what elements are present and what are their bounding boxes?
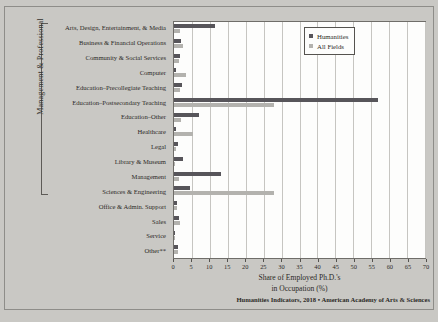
x-axis-title: Share of Employed Ph.D.'s in Occupation … [173, 273, 426, 294]
bar-row [174, 184, 425, 199]
bar-humanities [174, 98, 378, 102]
bar-row [174, 37, 425, 52]
category-label: Library & Museum [37, 155, 169, 170]
bar-humanities [174, 127, 176, 131]
source-note: Humanities Indicators, 2018 • American A… [65, 296, 430, 303]
category-label: Computer [37, 66, 169, 81]
x-axis-tick [336, 259, 337, 262]
x-axis-tick-label: 40 [314, 263, 320, 270]
bar-all-fields [174, 59, 179, 63]
bar-row [174, 52, 425, 67]
x-axis-tick-label: 0 [171, 263, 174, 270]
x-axis-tick [173, 259, 174, 262]
bar-humanities [174, 216, 179, 220]
bar-all-fields [174, 250, 178, 254]
x-axis-tick-label: 10 [206, 263, 212, 270]
bar-row [174, 66, 425, 81]
bar-humanities [174, 201, 177, 205]
bar-row [174, 229, 425, 244]
x-axis-title-line1: Share of Employed Ph.D.'s [173, 273, 426, 284]
bar-all-fields [174, 88, 180, 92]
category-label: Management [37, 170, 169, 185]
bar-row [174, 96, 425, 111]
bar-row [174, 111, 425, 126]
bar-humanities [174, 186, 190, 190]
legend-swatch-icon [309, 44, 313, 48]
x-axis-tick-label: 20 [242, 263, 248, 270]
x-axis-tick [227, 259, 228, 262]
bar-humanities [174, 172, 221, 176]
legend-item: All Fields [309, 41, 348, 51]
bar-rows [174, 22, 425, 258]
x-axis-tick-label: 5 [189, 263, 192, 270]
x-axis-tick [390, 259, 391, 262]
category-axis-labels: Arts, Design, Entertainment, & MediaBusi… [37, 21, 169, 259]
category-label: Other** [37, 244, 169, 259]
category-label: Legal [37, 140, 169, 155]
bar-all-fields [174, 118, 181, 122]
x-axis-tick-label: 35 [296, 263, 302, 270]
bar-row [174, 125, 425, 140]
legend-label: Humanities [317, 33, 348, 40]
bar-humanities [174, 157, 183, 161]
x-axis-tick [281, 259, 282, 262]
bar-humanities [174, 245, 178, 249]
x-axis-tick-labels: 0510152025303540455055606570 [173, 263, 426, 273]
bar-row [174, 155, 425, 170]
legend-label: All Fields [317, 43, 344, 50]
bar-all-fields [174, 73, 186, 77]
x-axis-tick [191, 259, 192, 262]
x-axis-tick [426, 259, 427, 262]
x-axis-tick [263, 259, 264, 262]
category-label: Service [37, 229, 169, 244]
bar-row [174, 81, 425, 96]
bar-humanities [174, 113, 199, 117]
x-axis-tick-label: 30 [278, 263, 284, 270]
bar-all-fields [174, 44, 183, 48]
bar-all-fields [174, 177, 179, 181]
bar-all-fields [174, 221, 180, 225]
x-axis-tick [354, 259, 355, 262]
x-axis-tick-label: 50 [351, 263, 357, 270]
category-label: Community & Social Services [37, 51, 169, 66]
x-axis-tick-label: 15 [224, 263, 230, 270]
bar-row [174, 140, 425, 155]
bar-row [174, 243, 425, 258]
bar-row [174, 22, 425, 37]
x-axis-title-line2: in Occupation (%) [173, 284, 426, 295]
x-axis-tick [245, 259, 246, 262]
x-axis-tick-label: 55 [369, 263, 375, 270]
x-axis-tick-label: 45 [332, 263, 338, 270]
category-label: Office & Admin. Support [37, 200, 169, 215]
chart-screenshot: Management & Professional Arts, Design, … [0, 0, 438, 322]
bar-all-fields [174, 29, 180, 33]
bar-humanities [174, 39, 181, 43]
gridline [425, 22, 426, 258]
x-axis-tick [209, 259, 210, 262]
x-axis-tick [300, 259, 301, 262]
category-label: Business & Financial Operations [37, 36, 169, 51]
x-axis-tick-label: 65 [405, 263, 411, 270]
bar-all-fields [174, 236, 175, 240]
category-label: Healthcare [37, 125, 169, 140]
legend: HumanitiesAll Fields [304, 27, 355, 55]
x-axis-tick-label: 60 [387, 263, 393, 270]
legend-swatch-icon [309, 34, 313, 38]
bar-row [174, 170, 425, 185]
bar-humanities [174, 24, 215, 28]
bar-all-fields [174, 206, 177, 210]
figure-frame: Management & Professional Arts, Design, … [4, 6, 434, 310]
category-label: Education–Other [37, 110, 169, 125]
plot-area [173, 21, 426, 259]
bar-humanities [174, 68, 176, 72]
bar-humanities [174, 231, 175, 235]
x-axis-tick [408, 259, 409, 262]
category-label: Education–Precollegiate Teaching [37, 81, 169, 96]
x-axis-tick [372, 259, 373, 262]
category-label: Education–Postsecondary Teaching [37, 95, 169, 110]
x-axis-tick [318, 259, 319, 262]
bar-row [174, 199, 425, 214]
x-axis-tick-label: 25 [260, 263, 266, 270]
bar-humanities [174, 83, 182, 87]
bar-all-fields [174, 132, 193, 136]
